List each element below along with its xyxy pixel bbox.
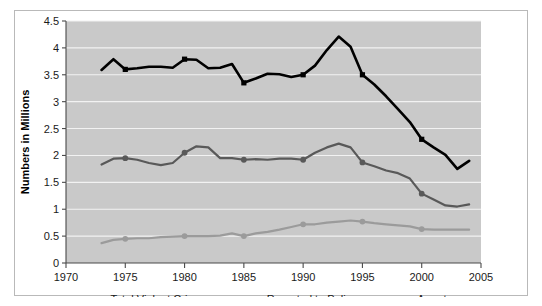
x-axis-tick-label: 1970 — [54, 271, 78, 283]
legend-label-1: Reported to Police — [267, 293, 358, 297]
series-marker-1 — [241, 157, 247, 163]
series-marker-2 — [122, 236, 128, 242]
series-marker-1 — [122, 155, 128, 161]
x-axis-tick-label: 1975 — [113, 271, 137, 283]
series-marker-1 — [182, 150, 188, 156]
legend-label-0: Total Violent Crime — [111, 293, 203, 297]
series-marker-0 — [360, 72, 365, 77]
y-axis-tick-label: 0 — [53, 257, 59, 269]
series-marker-2 — [419, 226, 425, 232]
legend-label-2: Arrests — [417, 293, 452, 297]
y-axis-tick-label: 1.5 — [44, 176, 59, 188]
series-marker-0 — [301, 72, 306, 77]
x-axis-tick-label: 1980 — [172, 271, 196, 283]
x-axis-tick-label: 2000 — [409, 271, 433, 283]
x-axis-tick-label: 1985 — [232, 271, 256, 283]
figure-frame: 00.511.522.533.544.519701975198019851990… — [14, 10, 528, 296]
series-marker-0 — [241, 80, 246, 85]
y-axis-tick-label: 4.5 — [44, 15, 59, 27]
series-marker-2 — [300, 221, 306, 227]
y-axis-tick-label: 2 — [53, 149, 59, 161]
y-axis-tick-label: 3.5 — [44, 69, 59, 81]
plot-area-background — [66, 21, 481, 263]
series-marker-0 — [123, 67, 128, 72]
x-axis-tick-label: 2005 — [469, 271, 493, 283]
series-marker-2 — [182, 233, 188, 239]
chart-page: 00.511.522.533.544.519701975198019851990… — [0, 0, 542, 306]
y-axis-tick-label: 0.5 — [44, 230, 59, 242]
series-marker-2 — [241, 233, 247, 239]
line-chart: 00.511.522.533.544.519701975198019851990… — [15, 11, 529, 297]
y-axis-title: Numbers in Millions — [19, 90, 31, 195]
series-marker-1 — [300, 157, 306, 163]
series-marker-1 — [419, 191, 425, 197]
x-axis-tick-label: 1995 — [350, 271, 374, 283]
y-axis-tick-label: 2.5 — [44, 123, 59, 135]
series-marker-1 — [360, 160, 366, 166]
y-axis-tick-label: 1 — [53, 203, 59, 215]
x-axis-tick-label: 1990 — [291, 271, 315, 283]
y-axis-tick-label: 3 — [53, 96, 59, 108]
y-axis-tick-label: 4 — [53, 42, 59, 54]
series-marker-0 — [419, 137, 424, 142]
series-marker-0 — [182, 57, 187, 62]
series-marker-2 — [360, 219, 366, 225]
